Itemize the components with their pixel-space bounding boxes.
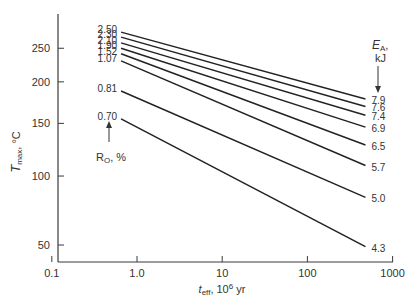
series-line [121,61,365,166]
series-line [121,54,365,145]
annotations: RO, %EA,kJ [96,38,388,165]
ro-label: 0.70 [98,111,118,122]
ea-label: 6.5 [371,141,385,152]
y-tick-label: 100 [32,170,50,182]
x-tick-label: 1000 [380,267,404,279]
series-line [121,37,365,106]
x-tick-label: 100 [298,267,316,279]
y-tick-label: 50 [38,239,50,251]
series-line [121,32,365,99]
series-line [121,48,365,127]
ea-label: 7.4 [371,111,385,122]
line-labels: 2.507.92.307.62.107.41.906.91.526.51.075… [98,24,386,253]
ea-unit: kJ [375,52,386,64]
x-tick-label: 10 [216,267,228,279]
ea-label: 5.7 [371,162,385,173]
ea-label: 5.0 [371,193,385,204]
y-tick-label: 250 [32,42,50,54]
x-tick-label: 0.1 [44,267,59,279]
ro-header: RO, % [96,151,126,165]
ea-label: 6.9 [371,123,385,134]
series-line [121,43,365,115]
x-tick-label: 1.0 [129,267,144,279]
ro-label: 0.81 [98,83,118,94]
series-line [121,91,365,197]
arrowhead-down-icon [375,86,381,93]
ro-label: 1.07 [98,53,118,64]
ea-label: 4.3 [371,243,385,254]
data-lines [121,32,365,246]
chart: 501001502002500.11.0101001000teff, 106 y… [0,0,418,306]
ea-header: EA, [372,38,388,53]
y-tick-label: 150 [32,117,50,129]
y-tick-label: 200 [32,76,50,88]
series-line [121,119,365,247]
y-axis-title: Tmax, °C [8,131,24,173]
x-axis-title: teff, 106 yr [199,282,246,297]
arrowhead-up-icon [106,121,112,128]
axes: 501001502002500.11.0101001000teff, 106 y… [8,14,405,297]
